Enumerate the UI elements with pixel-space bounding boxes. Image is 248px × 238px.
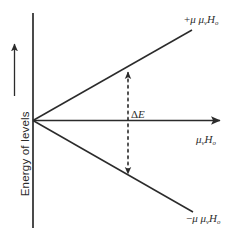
x-axis-h: H xyxy=(205,133,213,145)
lower-branch-label: −μ μνHo xyxy=(186,213,220,226)
upper-branch-h: H xyxy=(207,13,215,25)
upper-branch-line xyxy=(33,30,192,121)
y-axis-label: Energy of levels xyxy=(20,89,32,219)
x-axis-label: μνHo xyxy=(196,134,216,147)
upper-branch-label: +μ μνHo xyxy=(184,14,218,27)
lower-branch-line xyxy=(33,121,193,213)
upper-branch-h-subscript: o xyxy=(215,19,218,26)
delta-e-label: ΔE xyxy=(131,109,145,120)
energy-symbol: E xyxy=(138,108,145,120)
diagram-canvas xyxy=(0,0,248,238)
lower-branch-h-subscript: o xyxy=(217,218,220,225)
lower-branch-mu: μ xyxy=(192,212,198,224)
x-axis-h-subscript: o xyxy=(213,139,216,146)
lower-branch-h: H xyxy=(209,212,217,224)
upper-branch-mu: μ xyxy=(190,13,196,25)
zeeman-splitting-figure: +μ μνHo −μ μνHo μνHo ΔE Energy of levels xyxy=(0,0,248,238)
